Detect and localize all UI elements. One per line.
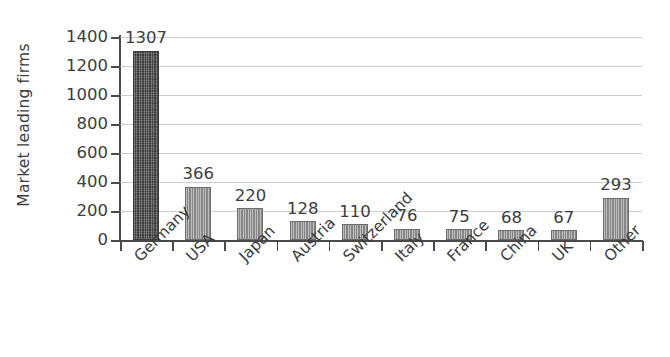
y-axis-tick-mark: [111, 66, 120, 68]
bar-slot: 110: [329, 37, 381, 240]
y-axis-tick-label: 1200: [48, 58, 108, 75]
x-axis-tick-mark: [381, 241, 383, 251]
bar[interactable]: [133, 51, 159, 241]
x-axis-tick-mark: [485, 241, 487, 251]
bar-slot: 220: [224, 37, 276, 240]
bar-value-label: 1307: [125, 30, 167, 47]
bar-value-label: 293: [600, 177, 632, 194]
x-axis-tick-label: UK: [550, 239, 576, 265]
x-axis-tick-mark: [642, 241, 644, 251]
y-axis-tick-label: 400: [48, 174, 108, 191]
bar-slot: 75: [433, 37, 485, 240]
bar-value-label: 220: [235, 188, 267, 205]
bar-slot: 293: [590, 37, 642, 240]
bar-value-label: 68: [501, 210, 522, 227]
x-axis-tick-mark: [538, 241, 540, 251]
y-axis-tick-label: 0: [48, 232, 108, 249]
bar-slot: 67: [538, 37, 590, 240]
bar-slot: 128: [277, 37, 329, 240]
bar-slot: 68: [485, 37, 537, 240]
bar-value-label: 67: [553, 210, 574, 227]
bar-value-label: 110: [339, 204, 371, 221]
y-axis-title-label: Market leading firms: [15, 43, 33, 206]
bar-value-label: 75: [449, 209, 470, 226]
bar-chart: Market leading firms 1400120010008006004…: [0, 0, 670, 357]
y-axis-tick-label: 1400: [48, 29, 108, 46]
y-axis-tick-mark: [111, 182, 120, 184]
y-axis-tick-label: 200: [48, 203, 108, 220]
y-axis-tick-mark: [111, 240, 120, 242]
y-axis-tick-mark: [111, 124, 120, 126]
x-axis-tick-mark: [433, 241, 435, 251]
x-axis-tick-mark: [120, 241, 122, 251]
x-axis-tick-mark: [590, 241, 592, 251]
y-axis-tick-mark: [111, 153, 120, 155]
bar-value-label: 128: [287, 201, 319, 218]
x-axis-tick-mark: [277, 241, 279, 251]
y-axis-tick-label: 600: [48, 145, 108, 162]
x-axis-tick-mark: [329, 241, 331, 251]
y-axis-tick-label: 1000: [48, 87, 108, 104]
bar-slot: 1307: [120, 37, 172, 240]
y-axis-tick-mark: [111, 211, 120, 213]
y-axis-tick-labels: 1400120010008006004002000: [44, 0, 108, 250]
y-axis-tick-label: 800: [48, 116, 108, 133]
y-axis-title: Market leading firms: [2, 0, 46, 250]
x-axis-tick-mark: [224, 241, 226, 251]
x-axis-tick-mark: [172, 241, 174, 251]
y-axis-tick-mark: [111, 95, 120, 97]
bar-value-label: 366: [183, 166, 215, 183]
y-axis-tick-mark: [111, 37, 120, 39]
